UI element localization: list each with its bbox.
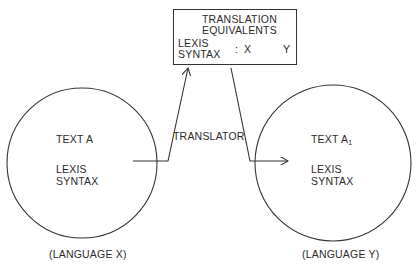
box-to-language: Y bbox=[283, 43, 290, 55]
right-lexis-label: LEXIS bbox=[311, 163, 342, 175]
left-syntax-label: SYNTAX bbox=[56, 175, 98, 187]
right-text-label: TEXT A1 bbox=[311, 133, 352, 149]
arrow-box-to-right bbox=[231, 68, 288, 161]
right-syntax-label: SYNTAX bbox=[311, 175, 353, 187]
box-title-line2: EQUIVALENTS bbox=[202, 24, 277, 36]
translator-label: TRANSLATOR bbox=[173, 130, 245, 142]
language-x-label: (LANGUAGE X) bbox=[49, 248, 127, 260]
right-text-main: TEXT A bbox=[311, 133, 348, 145]
box-separator: : bbox=[235, 43, 238, 55]
arrow-left-to-box bbox=[133, 68, 188, 161]
box-syntax: SYNTAX bbox=[178, 48, 220, 60]
language-y-label: (LANGUAGE Y) bbox=[302, 248, 379, 260]
box-from-language: X bbox=[244, 43, 251, 55]
left-text-label: TEXT A bbox=[56, 133, 93, 145]
left-lexis-label: LEXIS bbox=[56, 163, 87, 175]
right-text-subscript: 1 bbox=[348, 139, 352, 146]
